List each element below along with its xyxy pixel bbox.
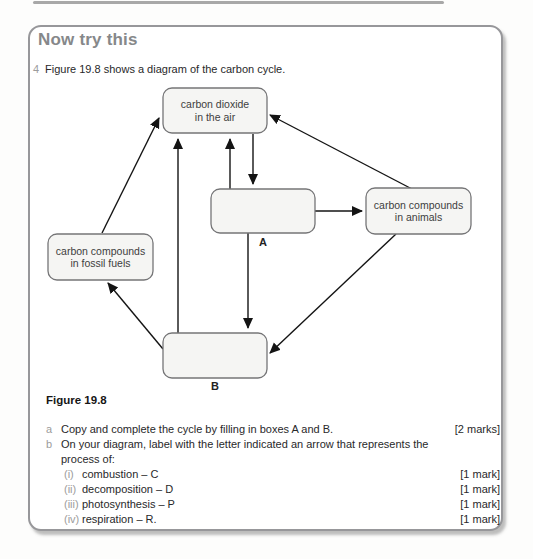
question-number: 4 xyxy=(33,63,45,76)
figure-caption: Figure 19.8 xyxy=(46,394,107,406)
task-b-letter: b xyxy=(46,438,61,451)
subitem-ii-marks: [1 mark] xyxy=(460,483,500,496)
subitem-iii-text: photosynthesis – P xyxy=(82,498,460,511)
textbook-page: Now try this 4 Figure 19.8 shows a diagr… xyxy=(0,0,533,559)
task-b-subitem-i: (i) combustion – C [1 mark] xyxy=(64,468,500,481)
task-b-text-line1: On your diagram, label with the letter i… xyxy=(61,438,500,451)
task-a-row: a Copy and complete the cycle by filling… xyxy=(46,423,500,436)
page-top-divider xyxy=(33,1,444,4)
task-b-subitem-iv: (iv) respiration – R. [1 mark] xyxy=(64,513,500,526)
box-a-letter: A xyxy=(243,236,283,248)
task-b-text-line2: process of: xyxy=(61,453,115,466)
subitem-iv-text: respiration – R. xyxy=(82,513,460,526)
task-b-subitem-iii: (iii) photosynthesis – P [1 mark] xyxy=(64,498,500,511)
question-row: 4 Figure 19.8 shows a diagram of the car… xyxy=(33,63,285,76)
task-b-subitem-ii: (ii) decomposition – D [1 mark] xyxy=(64,483,500,496)
task-b-row: b On your diagram, label with the letter… xyxy=(46,438,500,451)
subitem-i-text: combustion – C xyxy=(82,468,460,481)
subitem-iii-marks: [1 mark] xyxy=(460,498,500,511)
task-a-marks: [2 marks] xyxy=(455,423,500,436)
subitem-iv-numeral: (iv) xyxy=(64,513,82,526)
subitem-ii-numeral: (ii) xyxy=(64,483,82,496)
subitem-ii-text: decomposition – D xyxy=(82,483,460,496)
question-text: Figure 19.8 shows a diagram of the carbo… xyxy=(45,63,285,76)
panel-title: Now try this xyxy=(38,30,138,50)
subitem-i-marks: [1 mark] xyxy=(460,468,500,481)
box-b-letter: B xyxy=(195,380,235,392)
task-a-text: Copy and complete the cycle by filling i… xyxy=(61,423,455,436)
task-a-letter: a xyxy=(46,423,61,436)
subitem-i-numeral: (i) xyxy=(64,468,82,481)
subitem-iv-marks: [1 mark] xyxy=(460,513,500,526)
subitem-iii-numeral: (iii) xyxy=(64,498,82,511)
